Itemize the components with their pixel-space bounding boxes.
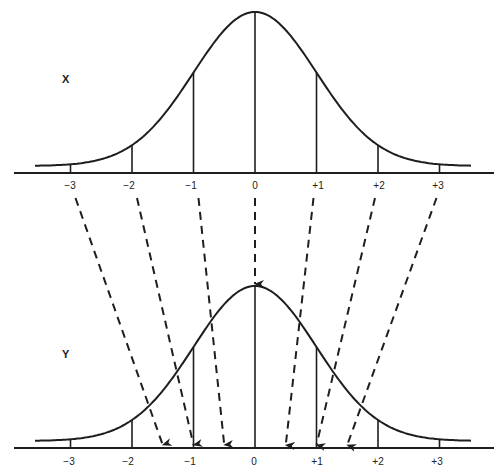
bottom-tick-label: −1 — [184, 456, 196, 467]
bottom-distribution-panel: Y −3 −2 −1 0 +1 +2 +3 — [14, 286, 494, 467]
mapping-arrows — [76, 198, 437, 445]
top-tick-label: −2 — [123, 180, 135, 191]
top-tick-label: 0 — [252, 180, 258, 191]
mapping-arrow — [347, 198, 436, 445]
bottom-tick-label: +2 — [372, 456, 384, 467]
top-tick-label: −1 — [185, 180, 197, 191]
top-normal-curve — [35, 12, 471, 166]
top-distribution-panel: X −3 −2 −1 0 +1 +2 +3 — [14, 12, 494, 191]
bottom-tick-labels: −3 −2 −1 0 +1 +2 +3 — [63, 456, 443, 467]
bottom-tick-label: −3 — [63, 456, 75, 467]
top-tick-label: +2 — [373, 180, 385, 191]
bottom-tick-label: 0 — [251, 456, 257, 467]
top-tick-label: +3 — [432, 180, 444, 191]
bottom-tick-label: +3 — [431, 456, 443, 467]
y-variable-label: Y — [62, 348, 70, 360]
normal-distribution-transformation-diagram: X −3 −2 −1 0 +1 +2 +3 Y −3 −2 −1 0 +1 +2… — [0, 0, 502, 472]
mapping-arrow — [317, 198, 376, 445]
bottom-normal-curve — [35, 286, 471, 441]
top-tick-label: −3 — [64, 180, 76, 191]
bottom-tick-label: +1 — [311, 456, 323, 467]
x-variable-label: X — [62, 73, 70, 85]
mapping-arrow — [76, 198, 163, 445]
top-tick-label: +1 — [312, 180, 324, 191]
bottom-tick-label: −2 — [122, 456, 134, 467]
top-tick-labels: −3 −2 −1 0 +1 +2 +3 — [64, 180, 444, 191]
